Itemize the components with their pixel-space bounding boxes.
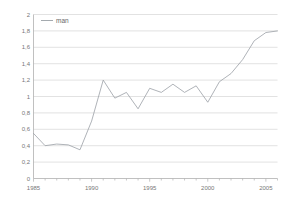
y-axis-tick-label: 1,2 xyxy=(6,77,30,83)
legend-label-man: man xyxy=(56,17,69,24)
line-chart: 00,20,40,60,811,21,41,61,82 198519901995… xyxy=(0,0,286,214)
y-axis-tick-label: 1,6 xyxy=(6,44,30,50)
x-axis-tick-label: 2005 xyxy=(251,185,281,191)
x-axis-tick-label: 1990 xyxy=(77,185,107,191)
y-axis-tick-label: 0,2 xyxy=(6,159,30,165)
y-axis-tick-label: 2 xyxy=(6,12,30,18)
y-axis-tick-label: 0,6 xyxy=(6,126,30,132)
chart-plot-area xyxy=(0,0,286,214)
x-axis-tick-label: 2000 xyxy=(193,185,223,191)
gridlines xyxy=(34,15,278,163)
y-axis-tick-label: 1 xyxy=(6,94,30,100)
x-axis-tick-label: 1985 xyxy=(19,185,49,191)
x-axis-ticks xyxy=(34,179,278,182)
x-axis-tick-label: 1995 xyxy=(135,185,165,191)
y-axis-tick-label: 0,8 xyxy=(6,110,30,116)
y-axis-tick-label: 0,4 xyxy=(6,143,30,149)
series-line-man xyxy=(34,31,278,150)
y-axis-tick-label: 1,4 xyxy=(6,61,30,67)
y-axis-tick-label: 1,8 xyxy=(6,28,30,34)
y-axis-tick-label: 0 xyxy=(6,176,30,182)
